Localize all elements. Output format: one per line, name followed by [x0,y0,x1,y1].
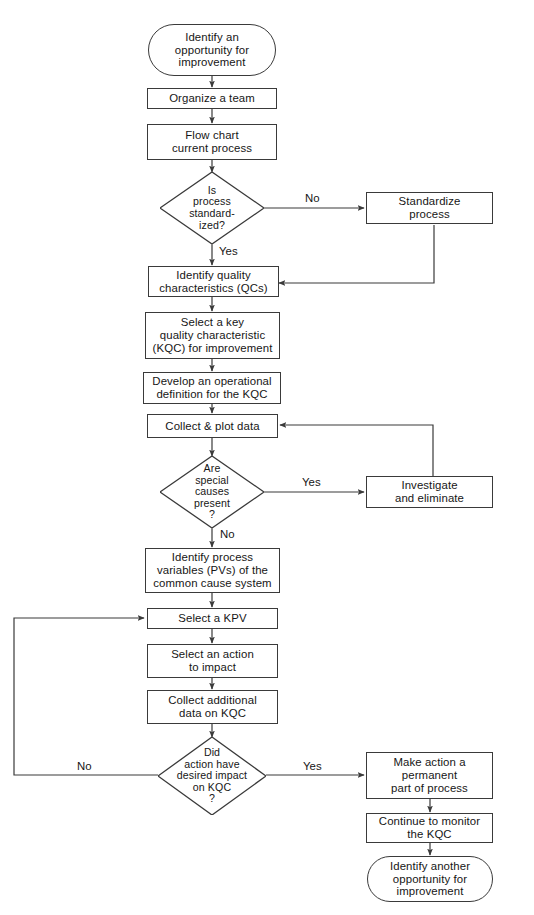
node-select-action-line-2: to impact [171,661,254,674]
node-select-kqc-line-2: quality characteristic [153,329,273,342]
node-end-line-2: opportunity for [390,873,470,886]
node-special-causes-line-1: Are [194,463,230,475]
node-operational-definition-line-2: definition for the KQC [152,388,271,401]
node-select-kpv-text: Select a KPV [178,612,246,625]
node-identify-pvs-line-3: common cause system [153,577,271,590]
node-desired-impact[interactable]: Did action have desired impact on KQC ? [158,737,266,815]
node-identify-qcs-line-2: characteristics (QCs) [159,282,267,295]
node-investigate-eliminate-line-1: Investigate [395,479,464,492]
node-collect-additional-text: Collect additional data on KQC [168,694,257,720]
node-flow-chart-process-line-1: Flow chart [172,129,252,142]
node-select-action[interactable]: Select an action to impact [147,644,278,678]
edge-label-special-causes-no: No [218,528,237,540]
node-flow-chart-process-text: Flow chart current process [172,129,252,155]
node-make-permanent-line-1: Make action a [391,756,468,769]
edge-investigate-return [280,425,433,476]
node-operational-definition-line-1: Develop an operational [152,375,271,388]
node-identify-qcs-line-1: Identify quality [159,269,267,282]
node-special-causes[interactable]: Are special causes present ? [160,456,264,528]
node-flow-chart-process-line-2: current process [172,142,252,155]
node-standardize-process-line-2: process [399,208,461,221]
node-investigate-eliminate-line-2: and eliminate [395,492,464,505]
node-make-permanent-text: Make action a permanent part of process [391,756,468,794]
node-start[interactable]: Identify an opportunity for improvement [148,24,276,76]
node-flow-chart-process[interactable]: Flow chart current process [147,124,277,160]
node-special-causes-line-5: ? [194,509,230,521]
node-continue-monitor-line-1: Continue to monitor [379,815,480,828]
node-collect-additional-line-1: Collect additional [168,694,257,707]
node-select-kpv-line-1: Select a KPV [178,612,246,625]
node-select-kqc-line-1: Select a key [153,316,273,329]
node-operational-definition[interactable]: Develop an operational definition for th… [143,372,281,404]
node-select-kpv[interactable]: Select a KPV [147,608,278,629]
edge-decision3-no [14,618,158,775]
node-collect-plot-data-text: Collect & plot data [165,420,259,433]
node-standardize-process-line-1: Standardize [399,195,461,208]
node-collect-plot-data[interactable]: Collect & plot data [147,414,278,438]
node-end-text: Identify another opportunity for improve… [390,860,470,898]
node-standardize-process-text: Standardize process [399,195,461,221]
node-make-permanent-line-2: permanent [391,769,468,782]
edge-label-desired-impact-yes: Yes [301,760,324,772]
node-is-standardized-line-4: ized? [189,220,235,232]
node-desired-impact-text: Did action have desired impact on KQC ? [177,747,247,805]
node-identify-pvs-line-2: variables (PVs) of the [153,564,271,577]
node-investigate-eliminate[interactable]: Investigate and eliminate [366,476,493,508]
node-select-action-text: Select an action to impact [171,648,254,674]
node-select-action-line-1: Select an action [171,648,254,661]
node-start-line-2: opportunity for [175,44,249,57]
node-start-line-1: Identify an [175,31,249,44]
node-end-line-3: improvement [390,885,470,898]
node-make-permanent-line-3: part of process [391,782,468,795]
edge-label-standardized-yes: Yes [217,245,240,257]
node-continue-monitor-text: Continue to monitor the KQC [379,815,480,841]
node-operational-definition-text: Develop an operational definition for th… [152,375,271,401]
node-start-text: Identify an opportunity for improvement [175,31,249,69]
flowchart-canvas: Identify an opportunity for improvement … [0,0,534,915]
node-select-kqc-text: Select a key quality characteristic (KQC… [153,316,273,354]
edge-standardize-return [279,225,434,283]
node-end-line-1: Identify another [390,860,470,873]
node-organize-team[interactable]: Organize a team [147,88,277,109]
node-start-line-3: improvement [175,56,249,69]
node-identify-pvs-text: Identify process variables (PVs) of the … [153,551,271,589]
node-select-kqc-line-3: (KQC) for improvement [153,342,273,355]
node-continue-monitor-line-2: the KQC [379,828,480,841]
node-is-standardized-line-3: standard- [189,208,235,220]
node-is-standardized[interactable]: Is process standard- ized? [160,172,264,244]
node-select-kqc[interactable]: Select a key quality characteristic (KQC… [145,312,280,359]
node-identify-pvs-line-1: Identify process [153,551,271,564]
node-special-causes-text: Are special causes present ? [194,463,230,521]
node-collect-additional[interactable]: Collect additional data on KQC [147,690,278,724]
node-make-permanent[interactable]: Make action a permanent part of process [366,752,493,799]
node-investigate-eliminate-text: Investigate and eliminate [395,479,464,505]
node-identify-qcs-text: Identify quality characteristics (QCs) [159,269,267,295]
node-collect-additional-line-2: data on KQC [168,707,257,720]
edge-label-desired-impact-no: No [75,760,94,772]
node-identify-qcs[interactable]: Identify quality characteristics (QCs) [148,266,279,297]
edge-label-special-causes-yes: Yes [300,476,323,488]
node-continue-monitor[interactable]: Continue to monitor the KQC [366,813,493,843]
node-end[interactable]: Identify another opportunity for improve… [367,856,493,902]
node-is-standardized-text: Is process standard- ized? [189,185,235,232]
node-organize-team-text: Organize a team [169,92,255,105]
node-desired-impact-line-1: Did [177,747,247,759]
node-identify-pvs[interactable]: Identify process variables (PVs) of the … [145,548,280,593]
node-desired-impact-line-5: ? [177,793,247,805]
node-standardize-process[interactable]: Standardize process [366,192,493,224]
node-organize-team-line-1: Organize a team [169,92,255,105]
edge-label-standardized-no: No [303,192,322,204]
node-collect-plot-data-line-1: Collect & plot data [165,420,259,433]
